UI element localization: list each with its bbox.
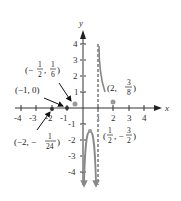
point-neg-half: [73, 102, 78, 107]
point-neg-one: [65, 106, 69, 110]
y-tick-label: 3: [73, 55, 78, 65]
x-tick-label: -4: [14, 113, 22, 123]
svg-text:3: 3: [127, 78, 131, 87]
x-tick-label: -3: [29, 113, 37, 123]
y-axis-arrow-icon: [80, 30, 86, 39]
svg-text:,: ,: [44, 65, 46, 75]
arrow-p2: [44, 98, 63, 106]
svg-text:1: 1: [38, 60, 42, 69]
point-two: [111, 100, 116, 105]
annotation-p5: ( 1 2 , − 3 2 ): [103, 126, 136, 145]
x-tick-label: 4: [142, 113, 147, 123]
svg-text:8: 8: [127, 88, 131, 97]
curve-middle-branch: [84, 131, 96, 182]
svg-text:): ): [57, 65, 60, 75]
svg-text:1: 1: [51, 60, 55, 69]
arrow-p1: [59, 83, 71, 101]
x-tick-label: 3: [127, 113, 132, 123]
svg-text:3: 3: [127, 126, 131, 135]
x-tick-label: 2: [111, 113, 116, 123]
svg-text:(: (: [103, 131, 106, 141]
y-tick-label: -2: [68, 135, 76, 145]
svg-text:, −: , −: [114, 131, 124, 141]
svg-text:(−2, −: (−2, −: [14, 137, 36, 147]
svg-text:): ): [133, 83, 136, 93]
svg-text:): ): [57, 137, 60, 147]
y-tick-label: -4: [68, 167, 76, 177]
svg-text:2: 2: [127, 136, 131, 145]
svg-text:6: 6: [51, 70, 55, 79]
svg-text:(2,: (2,: [107, 83, 117, 93]
svg-text:1: 1: [108, 126, 112, 135]
y-tick-label: -1: [68, 119, 76, 129]
svg-text:1: 1: [48, 132, 52, 141]
x-tick-label: -1: [60, 113, 68, 123]
svg-text:(−: (−: [25, 65, 33, 75]
y-tick-label: -3: [68, 151, 76, 161]
point-local-max: [88, 129, 92, 133]
annotation-p1: (− 1 2 , 1 6 ): [25, 60, 60, 79]
y-axis-label: y: [78, 18, 83, 28]
annotation-p3: (−2, − 1 24 ): [14, 132, 60, 151]
svg-text:): ): [133, 131, 136, 141]
x-axis-arrow-icon: [154, 105, 162, 111]
point-neg-two: [50, 107, 54, 111]
y-tick-label: 4: [73, 39, 78, 49]
y-tick-label: 2: [73, 71, 78, 81]
x-axis: [15, 105, 162, 111]
svg-text:24: 24: [46, 142, 54, 151]
y-tick-label: 1: [74, 87, 79, 97]
annotation-p4: (2, 3 8 ): [107, 78, 136, 97]
curve-right-branch: [99, 46, 105, 92]
svg-text:2: 2: [108, 136, 112, 145]
annotation-p2: (−1, 0): [15, 85, 40, 95]
x-axis-label: x: [164, 103, 169, 113]
graph: x -4 -3 -2 -1 1 2 3 4 y 4 3 2 1 -1 -2 -3…: [0, 0, 181, 201]
svg-text:2: 2: [38, 70, 42, 79]
